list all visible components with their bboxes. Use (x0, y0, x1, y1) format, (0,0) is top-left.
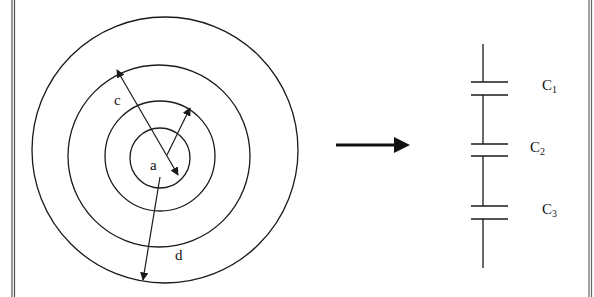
radius-arrow-b (167, 108, 190, 155)
capacitor-label-c1: C1 (542, 78, 557, 95)
diagram-canvas (0, 0, 594, 297)
concentric-shells (32, 17, 298, 283)
second-shell (68, 65, 250, 247)
transform-arrow (336, 137, 410, 153)
right-border (589, 0, 592, 297)
left-border (12, 0, 15, 297)
label-c: c (114, 93, 121, 108)
capacitor-label-c3: C3 (542, 202, 557, 219)
outer-shell (32, 17, 298, 283)
capacitor-label-c2: C2 (530, 140, 545, 157)
label-a: a (150, 158, 157, 173)
label-d: d (175, 248, 183, 263)
third-shell (105, 101, 215, 211)
capacitor-circuit (471, 44, 508, 268)
radius-arrow-c (117, 70, 178, 175)
radius-arrow-d (143, 177, 160, 280)
